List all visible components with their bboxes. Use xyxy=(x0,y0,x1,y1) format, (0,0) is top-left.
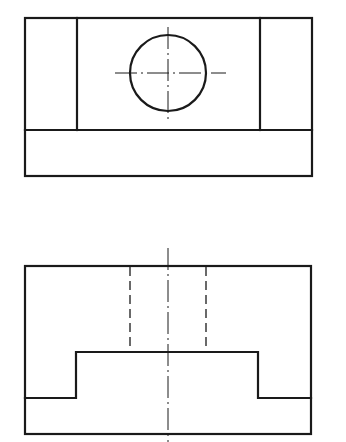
top-view xyxy=(25,18,312,176)
orthographic-drawing xyxy=(0,0,346,442)
front-view xyxy=(25,248,311,442)
